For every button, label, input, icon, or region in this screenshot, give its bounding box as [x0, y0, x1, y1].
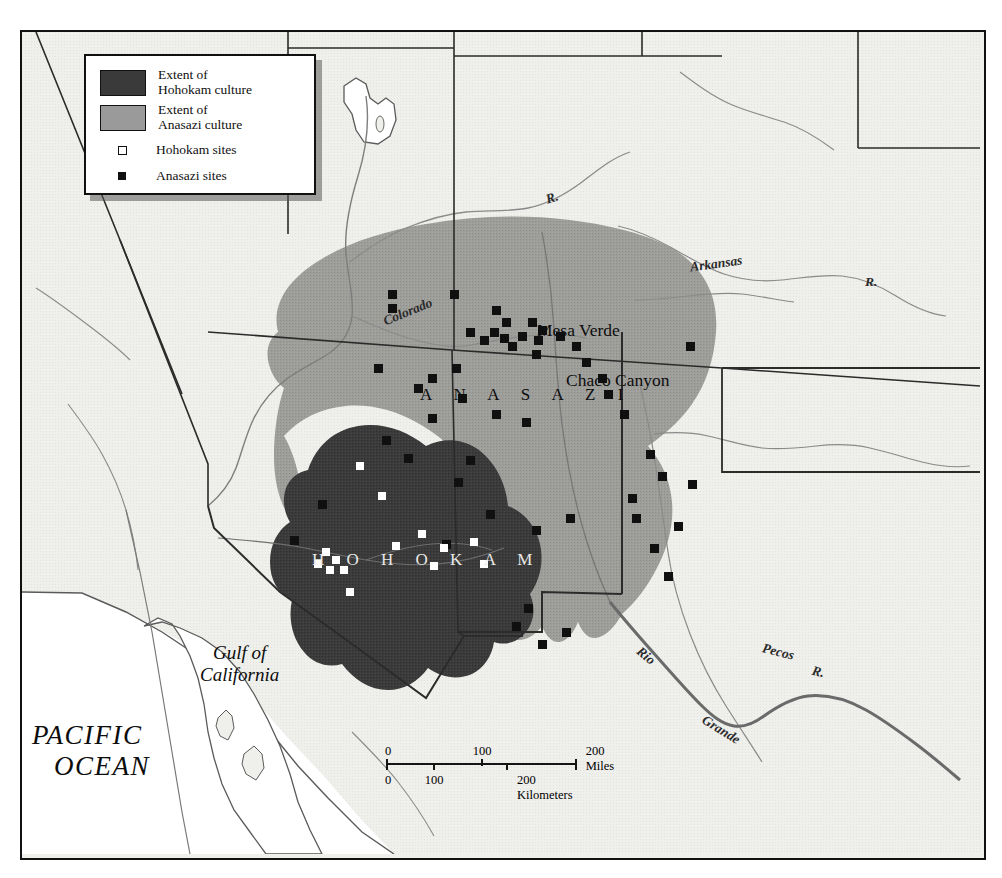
anasazi-site: [458, 394, 467, 403]
anasazi-site: [512, 622, 521, 631]
anasazi-site: [388, 304, 397, 313]
scale-km-0: 0: [385, 773, 391, 788]
anasazi-site: [490, 328, 499, 337]
anasazi-site: [374, 364, 383, 373]
scale-tick-start: [386, 759, 388, 770]
anasazi-site: [290, 536, 299, 545]
hohokam-site: [326, 566, 334, 574]
legend-item-anasazi-extent: Extent of Anasazi culture: [100, 103, 314, 132]
hohokam-site: [392, 542, 400, 550]
anasazi-site: [646, 450, 655, 459]
anasazi-site: [492, 306, 501, 315]
scale-bar: 0 100 200 Miles 0 100 200 Kilometers: [386, 744, 616, 788]
hohokam-site: [314, 560, 322, 568]
legend-anasazi-line1: Extent of: [158, 103, 242, 118]
scale-km-200: 200 Kilometers: [517, 773, 583, 803]
anasazi-site: [466, 328, 475, 337]
hohokam-site: [332, 556, 340, 564]
hohokam-site: [430, 562, 438, 570]
anasazi-site: [454, 478, 463, 487]
hohokam-site: [356, 462, 364, 470]
anasazi-site: [428, 414, 437, 423]
legend-hohokam-line2: Hohokam culture: [158, 83, 252, 98]
anasazi-site: [522, 418, 531, 427]
anasazi-site: [404, 454, 413, 463]
scale-tick-km-100: [433, 763, 435, 770]
hohokam-site: [440, 544, 448, 552]
utah-lake: [376, 116, 384, 132]
anasazi-site: [604, 390, 613, 399]
scale-miles-100: 100: [473, 744, 492, 759]
hohokam-site: [378, 492, 386, 500]
anasazi-site: [566, 514, 575, 523]
legend-label-hohokam-extent: Extent of Hohokam culture: [158, 68, 252, 97]
legend-marker-anasazi-box: [100, 172, 144, 180]
anasazi-site: [500, 334, 509, 343]
legend-item-hohokam-extent: Extent of Hohokam culture: [100, 68, 314, 97]
hohokam-site: [322, 548, 330, 556]
anasazi-site: [664, 572, 673, 581]
anasazi-site: [492, 410, 501, 419]
anasazi-site: [532, 526, 541, 535]
scale-tick-mi-100: [481, 759, 483, 766]
anasazi-site: [674, 522, 683, 531]
anasazi-site: [688, 480, 697, 489]
scale-bar-rule: [386, 759, 616, 770]
hohokam-site: [340, 566, 348, 574]
map-figure: Extent of Hohokam culture Extent of Anas…: [0, 0, 1002, 878]
anasazi-site: [388, 290, 397, 299]
scale-bar-km-labels: 0 100 200 Kilometers: [386, 773, 616, 788]
anasazi-site: [650, 544, 659, 553]
open-square-icon: [118, 146, 127, 155]
anasazi-site: [480, 336, 489, 345]
anasazi-site: [486, 510, 495, 519]
anasazi-site: [524, 604, 533, 613]
anasazi-site: [538, 640, 547, 649]
anasazi-site: [534, 336, 543, 345]
anasazi-site: [452, 364, 461, 373]
legend-anasazi-line2: Anasazi culture: [158, 118, 242, 133]
anasazi-site: [428, 374, 437, 383]
anasazi-site: [532, 350, 541, 359]
anasazi-site: [508, 342, 517, 351]
map-frame: Extent of Hohokam culture Extent of Anas…: [20, 30, 986, 860]
scale-tick-km-200: [506, 763, 508, 770]
anasazi-site: [466, 456, 475, 465]
anasazi-site: [450, 290, 459, 299]
anasazi-site: [318, 500, 327, 509]
hohokam-site: [346, 588, 354, 596]
scale-km-100: 100: [425, 773, 444, 788]
anasazi-site: [686, 342, 695, 351]
anasazi-site: [598, 374, 607, 383]
anasazi-site: [528, 318, 537, 327]
anasazi-site: [502, 318, 511, 327]
filled-square-icon: [118, 172, 126, 180]
legend-label-anasazi-sites: Anasazi sites: [156, 169, 227, 184]
anasazi-site: [632, 514, 641, 523]
hohokam-site: [418, 530, 426, 538]
anasazi-site: [518, 332, 527, 341]
scale-bar-miles-labels: 0 100 200 Miles: [386, 744, 616, 759]
anasazi-site: [572, 342, 581, 351]
hohokam-site: [480, 560, 488, 568]
legend-item-anasazi-sites: Anasazi sites: [100, 169, 314, 184]
legend-item-hohokam-sites: Hohokam sites: [100, 143, 314, 158]
anasazi-site: [414, 384, 423, 393]
anasazi-site: [582, 358, 591, 367]
anasazi-site: [556, 332, 565, 341]
anasazi-site: [658, 472, 667, 481]
anasazi-site: [382, 436, 391, 445]
scale-miles-0: 0: [385, 744, 391, 759]
legend-hohokam-line1: Extent of: [158, 68, 252, 83]
legend-swatch-anasazi: [100, 105, 146, 131]
legend-marker-hohokam-box: [100, 146, 144, 155]
legend-swatch-hohokam: [100, 70, 146, 96]
hohokam-site: [470, 538, 478, 546]
map-legend: Extent of Hohokam culture Extent of Anas…: [84, 54, 316, 195]
anasazi-site: [562, 628, 571, 637]
legend-label-anasazi-extent: Extent of Anasazi culture: [158, 103, 242, 132]
anasazi-site: [538, 326, 547, 335]
anasazi-site: [620, 410, 629, 419]
scale-tick-end: [575, 759, 577, 770]
legend-label-hohokam-sites: Hohokam sites: [156, 143, 237, 158]
